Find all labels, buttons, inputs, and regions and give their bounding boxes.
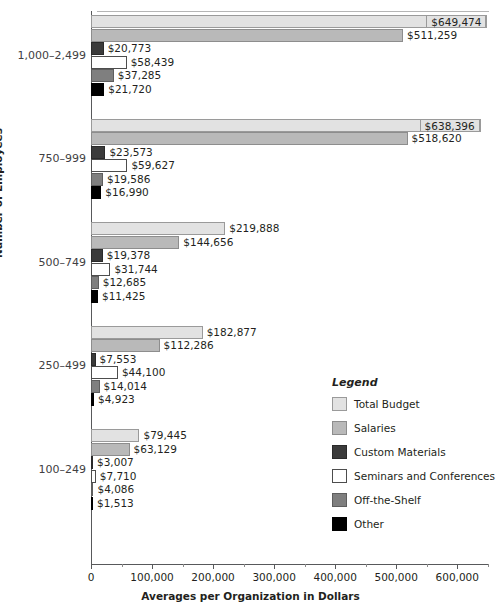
y-axis-title: Number of Employees — [0, 128, 4, 258]
bar-other — [91, 290, 98, 303]
bar-seminars — [91, 470, 96, 483]
bar-value-label: $4,086 — [94, 483, 134, 496]
bar-value-label: $19,378 — [104, 249, 150, 262]
legend-label: Other — [354, 518, 384, 530]
bar-custom — [91, 42, 104, 55]
bar-value-label: $12,685 — [100, 276, 146, 289]
bar-value-label: $11,425 — [99, 290, 145, 303]
bar-value-label: $14,014 — [101, 380, 147, 393]
bar-value-label: $511,259 — [404, 29, 457, 42]
bar-value-label: $21,720 — [105, 83, 151, 96]
legend-swatch-salaries — [332, 421, 347, 435]
legend-item: Off-the-Shelf — [332, 492, 497, 508]
bar-offshelf — [91, 173, 103, 186]
x-tick-minor — [183, 564, 184, 567]
bar-salaries — [91, 339, 160, 352]
legend-swatch-total — [332, 397, 347, 411]
legend-swatch-offshelf — [332, 493, 347, 507]
legend-item: Seminars and Conferences — [332, 468, 497, 484]
x-axis-line — [91, 564, 489, 565]
bar-custom — [91, 353, 96, 366]
bar-value-label: $112,286 — [161, 339, 214, 352]
x-tick — [152, 564, 153, 569]
x-tick-minor — [427, 564, 428, 567]
bar-value-label: $518,620 — [409, 132, 462, 145]
x-tick-label: 600,000 — [436, 571, 479, 583]
x-tick-minor — [244, 564, 245, 567]
bar-seminars — [91, 263, 110, 276]
legend-item: Custom Materials — [332, 444, 497, 460]
legend-swatch-seminars — [332, 469, 347, 483]
bar-custom — [91, 146, 105, 159]
bar-value-label: $144,656 — [180, 236, 233, 249]
bar-value-label: $31,744 — [111, 263, 157, 276]
bar-value-label: $649,474 — [426, 15, 486, 28]
legend-item: Total Budget — [332, 396, 497, 412]
x-tick — [335, 564, 336, 569]
x-tick-label: 100,000 — [130, 571, 173, 583]
bar-chart: $649,474$511,259$20,773$58,439$37,285$21… — [0, 0, 501, 616]
bar-value-label: $7,553 — [97, 353, 137, 366]
x-tick — [91, 564, 92, 569]
bar-value-label: $79,445 — [140, 429, 186, 442]
bar-salaries — [91, 443, 130, 456]
bar-value-label: $182,877 — [204, 326, 257, 339]
bar-value-label: $16,990 — [102, 186, 148, 199]
bar-offshelf — [91, 380, 100, 393]
bar-value-label: $4,923 — [95, 393, 135, 406]
legend-item: Salaries — [332, 420, 497, 436]
legend-label: Off-the-Shelf — [354, 494, 421, 506]
bar-custom — [91, 249, 103, 262]
bar-offshelf — [91, 69, 114, 82]
bar-seminars — [91, 159, 127, 172]
x-tick-label: 200,000 — [191, 571, 234, 583]
y-axis-category-label: 250–499 — [39, 359, 87, 372]
x-axis-title: Averages per Organization in Dollars — [0, 590, 501, 602]
legend-item: Other — [332, 516, 497, 532]
y-axis-category-label: 1,000–2,499 — [18, 49, 86, 62]
bar-other — [91, 393, 94, 406]
bar-salaries — [91, 236, 179, 249]
x-tick — [396, 564, 397, 569]
bar-other — [91, 497, 93, 510]
bar-value-label: $63,129 — [131, 443, 177, 456]
bar-value-label: $37,285 — [115, 69, 161, 82]
legend-title: Legend — [332, 376, 497, 389]
bar-value-label: $638,396 — [420, 119, 480, 132]
bar-value-label: $58,439 — [128, 56, 174, 69]
x-tick-label: 400,000 — [313, 571, 356, 583]
legend-label: Total Budget — [354, 398, 420, 410]
x-tick-minor — [366, 564, 367, 567]
bar-offshelf — [91, 276, 99, 289]
x-tick-minor — [488, 564, 489, 567]
x-tick — [213, 564, 214, 569]
bar-value-label: $219,888 — [226, 222, 279, 235]
bar-value-label: $3,007 — [94, 456, 134, 469]
x-tick — [274, 564, 275, 569]
bar-seminars — [91, 56, 127, 69]
legend-label: Custom Materials — [354, 446, 446, 458]
bar-salaries — [91, 132, 408, 145]
bar-offshelf — [91, 483, 93, 496]
x-tick-label: 300,000 — [252, 571, 295, 583]
bar-value-label: $44,100 — [119, 366, 165, 379]
bar-seminars — [91, 366, 118, 379]
x-tick-minor — [305, 564, 306, 567]
bar-value-label: $1,513 — [94, 497, 134, 510]
bar-total — [91, 429, 139, 442]
bar-custom — [91, 456, 93, 469]
legend: Legend Total BudgetSalariesCustom Materi… — [332, 376, 497, 540]
y-axis-category-label: 100–249 — [39, 463, 87, 476]
legend-label: Seminars and Conferences — [354, 470, 495, 482]
bar-value-label: $19,586 — [104, 173, 150, 186]
legend-swatch-custom — [332, 445, 347, 459]
bar-value-label: $20,773 — [105, 42, 151, 55]
bar-value-label: $23,573 — [106, 146, 152, 159]
legend-swatch-other — [332, 517, 347, 531]
bar-total — [91, 326, 203, 339]
x-tick-label: 500,000 — [374, 571, 417, 583]
bar-other — [91, 83, 104, 96]
bar-total — [91, 222, 225, 235]
y-axis-category-label: 500–749 — [39, 256, 87, 269]
bar-value-label: $7,710 — [97, 470, 137, 483]
